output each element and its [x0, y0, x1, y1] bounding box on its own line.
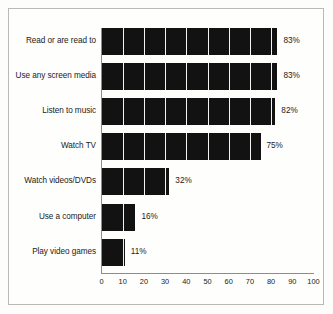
bar: [102, 239, 125, 266]
bar-gridline: [229, 133, 230, 160]
bar-gridline: [229, 28, 230, 55]
bar: [102, 133, 261, 160]
bar-value-label: 32%: [175, 176, 191, 185]
category-label: Watch videos/DVDs: [8, 176, 96, 185]
bar-gridline: [271, 28, 272, 55]
bar-value-label: 75%: [267, 141, 283, 150]
bar-gridline: [186, 28, 187, 55]
x-axis-line: [101, 273, 314, 274]
bar-gridline: [208, 28, 209, 55]
bar-gridline: [229, 63, 230, 90]
bar-value-label: 83%: [283, 36, 299, 45]
x-tick-label: 80: [261, 277, 281, 286]
x-tick-label: 40: [176, 277, 196, 286]
bar-gridline: [123, 168, 124, 195]
category-label: Read or are read to: [8, 36, 96, 45]
bar-gridline: [186, 98, 187, 125]
bar-value-label: 82%: [281, 106, 297, 115]
bar-gridline: [144, 168, 145, 195]
bar: [102, 28, 278, 55]
bar-gridline: [144, 63, 145, 90]
category-label: Listen to music: [8, 106, 96, 115]
bar-value-label: 16%: [141, 212, 157, 221]
bar-gridline: [123, 204, 124, 231]
bar-gridline: [165, 168, 166, 195]
category-label: Play video games: [8, 247, 96, 256]
x-tick-label: 0: [92, 277, 112, 286]
bar-gridline: [250, 63, 251, 90]
bar-gridline: [123, 63, 124, 90]
bar: [102, 98, 276, 125]
bar-gridline: [229, 98, 230, 125]
bar-gridline: [186, 63, 187, 90]
bar: [102, 168, 170, 195]
bar-value-label: 83%: [283, 71, 299, 80]
bar-gridline: [271, 98, 272, 125]
category-label: Watch TV: [8, 141, 96, 150]
bar-gridline: [165, 133, 166, 160]
bar-gridline: [208, 63, 209, 90]
bar-chart-figure: Read or are read to83%Use any screen med…: [0, 0, 333, 314]
bar: [102, 204, 136, 231]
x-tick-label: 30: [155, 277, 175, 286]
bar-gridline: [165, 98, 166, 125]
bar-gridline: [208, 133, 209, 160]
bar: [102, 63, 278, 90]
x-tick-label: 90: [282, 277, 302, 286]
x-tick-label: 60: [219, 277, 239, 286]
bar-gridline: [123, 239, 124, 266]
bar-gridline: [165, 63, 166, 90]
x-tick-label: 100: [304, 277, 324, 286]
x-tick-label: 10: [113, 277, 133, 286]
x-tick-label: 70: [240, 277, 260, 286]
x-tick-label: 20: [134, 277, 154, 286]
bar-gridline: [144, 28, 145, 55]
category-label: Use a computer: [8, 212, 96, 221]
bar-gridline: [208, 98, 209, 125]
bar-gridline: [123, 98, 124, 125]
bar-gridline: [165, 28, 166, 55]
bar-value-label: 11%: [131, 247, 147, 256]
category-label: Use any screen media: [8, 71, 96, 80]
bar-gridline: [250, 28, 251, 55]
bar-gridline: [250, 98, 251, 125]
bar-gridline: [144, 98, 145, 125]
bar-gridline: [144, 133, 145, 160]
plot-area: Read or are read to83%Use any screen med…: [0, 0, 333, 314]
bar-gridline: [250, 133, 251, 160]
bar-gridline: [123, 28, 124, 55]
bar-gridline: [123, 133, 124, 160]
bar-gridline: [271, 63, 272, 90]
bar-gridline: [186, 133, 187, 160]
x-tick-label: 50: [198, 277, 218, 286]
